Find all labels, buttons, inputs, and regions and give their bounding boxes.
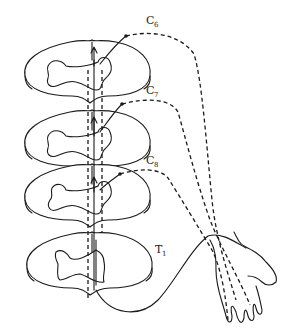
label-c7: C 7 xyxy=(146,84,158,99)
label-t1: T 1 xyxy=(155,243,166,258)
label-c6: C 6 xyxy=(146,14,159,29)
spinal-cord-section-t1 xyxy=(27,232,153,295)
svg-text:6: 6 xyxy=(154,21,159,29)
svg-text:1: 1 xyxy=(162,250,166,258)
svg-text:7: 7 xyxy=(154,91,158,99)
svg-text:8: 8 xyxy=(154,161,158,169)
spinal-dermatome-diagram: C 6 C 7 C 8 T 1 xyxy=(0,0,292,335)
label-c8: C 8 xyxy=(146,154,158,169)
